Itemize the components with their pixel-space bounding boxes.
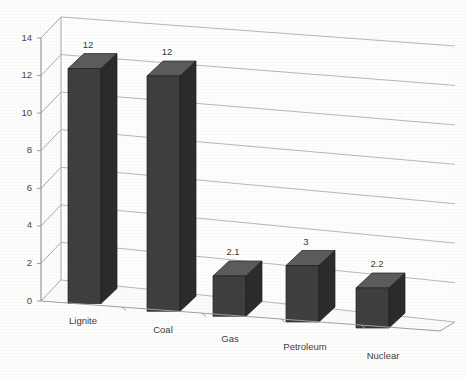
y-axis-tick-labels: 0 2 4 6 8 10 12 14 <box>21 32 32 306</box>
bar-side-face <box>101 54 117 304</box>
value-label-gas: 2.1 <box>226 246 239 257</box>
y-tick-label: 8 <box>27 144 32 155</box>
y-tick-label: 10 <box>21 107 32 118</box>
bar-petroleum[interactable] <box>286 251 335 323</box>
bar-gas[interactable] <box>213 261 262 316</box>
value-label-petroleum: 3 <box>303 236 308 247</box>
value-label-coal: 12 <box>162 46 173 57</box>
value-label-nuclear: 2.2 <box>370 258 383 269</box>
bar-coal[interactable] <box>147 61 196 311</box>
bar-chart-3d: 0 2 4 6 8 10 12 14 <box>0 0 467 378</box>
y-tick-label: 6 <box>27 182 32 193</box>
y-tick-label: 4 <box>27 219 32 230</box>
value-label-lignite: 12 <box>83 39 94 50</box>
category-label-coal: Coal <box>153 324 173 335</box>
bar-front-face <box>286 266 319 323</box>
category-label-nuclear: Nuclear <box>367 350 400 361</box>
bar-side-face <box>180 61 196 311</box>
y-axis-ticks <box>37 38 41 301</box>
chart-container: 0 2 4 6 8 10 12 14 <box>0 0 467 378</box>
category-label-lignite: Lignite <box>69 315 97 326</box>
y-tick-label: 0 <box>27 295 32 306</box>
category-label-petroleum: Petroleum <box>283 341 326 352</box>
category-label-gas: Gas <box>221 333 239 344</box>
y-tick-label: 14 <box>21 32 32 43</box>
bar-lignite[interactable] <box>68 54 117 304</box>
bar-front-face <box>356 288 389 328</box>
bar-front-face <box>213 276 246 316</box>
y-tick-label: 2 <box>27 257 32 268</box>
bar-front-face <box>68 69 101 304</box>
bar-nuclear[interactable] <box>356 273 405 328</box>
y-tick-label: 12 <box>21 69 32 80</box>
bar-front-face <box>147 76 180 311</box>
wall-depth-edges <box>41 17 61 301</box>
